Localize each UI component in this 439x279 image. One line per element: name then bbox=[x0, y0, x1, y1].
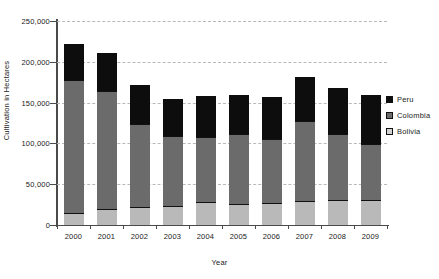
x-axis-tick bbox=[222, 225, 223, 229]
bar-segment-colombia bbox=[97, 91, 117, 209]
bar-segment-peru bbox=[130, 85, 150, 124]
bar-2005 bbox=[229, 95, 249, 225]
legend-swatch-bolivia-icon bbox=[386, 128, 393, 135]
bar-segment-bolivia bbox=[295, 201, 315, 225]
y-axis-tick bbox=[50, 143, 57, 144]
y-axis-tick bbox=[50, 225, 57, 226]
bar-segment-bolivia bbox=[97, 209, 117, 225]
legend-label: Peru bbox=[397, 95, 414, 104]
bar-segment-colombia bbox=[64, 80, 84, 213]
x-axis-tick-label: 2009 bbox=[351, 232, 391, 241]
bar-segment-colombia bbox=[229, 134, 249, 204]
x-axis-tick bbox=[57, 225, 58, 229]
x-axis-tick bbox=[387, 225, 388, 229]
bar-segment-peru bbox=[262, 97, 282, 139]
x-axis-tick bbox=[288, 225, 289, 229]
bar-chart: 050,000100,000150,000200,000250,000 Cult… bbox=[0, 0, 439, 279]
gridline bbox=[57, 21, 387, 22]
bar-2008 bbox=[328, 88, 348, 225]
bar-segment-bolivia bbox=[130, 207, 150, 225]
legend-label: Bolivia bbox=[397, 127, 421, 136]
bar-segment-bolivia bbox=[229, 204, 249, 225]
bar-2002 bbox=[130, 85, 150, 225]
y-axis-tick-label: 200,000 bbox=[4, 57, 50, 66]
x-axis-tick bbox=[321, 225, 322, 229]
x-axis-tick bbox=[255, 225, 256, 229]
y-axis-tick-label: 0 bbox=[4, 221, 50, 230]
x-axis-tick bbox=[123, 225, 124, 229]
y-axis-tick bbox=[50, 184, 57, 185]
chart-legend: PeruColombiaBolivia bbox=[386, 95, 430, 143]
bar-segment-peru bbox=[163, 99, 183, 135]
x-axis-tick bbox=[90, 225, 91, 229]
y-axis-tick bbox=[50, 62, 57, 63]
y-axis-tick bbox=[50, 103, 57, 104]
legend-swatch-colombia-icon bbox=[386, 112, 393, 119]
bar-2007 bbox=[295, 77, 315, 225]
legend-swatch-peru-icon bbox=[386, 96, 393, 103]
bar-segment-peru bbox=[64, 44, 84, 80]
bar-segment-peru bbox=[361, 95, 381, 144]
bar-segment-peru bbox=[295, 77, 315, 121]
bar-segment-peru bbox=[328, 88, 348, 134]
y-axis-tick-label: 150,000 bbox=[4, 98, 50, 107]
bar-segment-colombia bbox=[328, 134, 348, 200]
y-axis-title: Cultivation in Hectares bbox=[2, 31, 11, 171]
bar-2006 bbox=[262, 97, 282, 225]
x-axis-tick bbox=[189, 225, 190, 229]
bar-segment-colombia bbox=[163, 136, 183, 206]
y-axis-tick-label: 100,000 bbox=[4, 139, 50, 148]
bar-segment-bolivia bbox=[328, 200, 348, 225]
bar-segment-bolivia bbox=[163, 206, 183, 225]
bar-2003 bbox=[163, 99, 183, 225]
bar-segment-colombia bbox=[262, 139, 282, 203]
bar-segment-bolivia bbox=[262, 203, 282, 225]
legend-label: Colombia bbox=[397, 111, 430, 120]
bar-segment-colombia bbox=[196, 137, 216, 202]
y-axis-tick-label: 50,000 bbox=[4, 180, 50, 189]
x-axis-tick bbox=[354, 225, 355, 229]
bar-segment-colombia bbox=[130, 124, 150, 207]
bar-segment-colombia bbox=[295, 121, 315, 202]
legend-item-colombia[interactable]: Colombia bbox=[386, 111, 430, 120]
legend-item-bolivia[interactable]: Bolivia bbox=[386, 127, 430, 136]
x-axis-tick bbox=[156, 225, 157, 229]
bar-2004 bbox=[196, 96, 216, 225]
bar-2000 bbox=[64, 44, 84, 225]
y-axis-tick bbox=[50, 21, 57, 22]
legend-item-peru[interactable]: Peru bbox=[386, 95, 430, 104]
bar-2009 bbox=[361, 95, 381, 225]
bar-segment-peru bbox=[229, 95, 249, 134]
y-axis-tick-label: 250,000 bbox=[4, 17, 50, 26]
bar-2001 bbox=[97, 53, 117, 225]
bar-segment-bolivia bbox=[64, 213, 84, 225]
x-axis-title: Year bbox=[0, 258, 439, 267]
bar-segment-bolivia bbox=[361, 200, 381, 225]
bar-segment-peru bbox=[97, 53, 117, 91]
bar-segment-colombia bbox=[361, 144, 381, 199]
bar-segment-bolivia bbox=[196, 202, 216, 225]
plot-area bbox=[57, 21, 387, 225]
bar-segment-peru bbox=[196, 96, 216, 137]
